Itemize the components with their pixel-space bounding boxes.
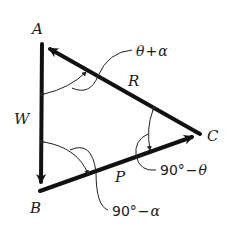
vertex-label-b: B bbox=[29, 199, 41, 217]
leader-a bbox=[72, 50, 132, 90]
angle-label-b: 90°−α bbox=[112, 203, 161, 219]
edge-label-w: W bbox=[14, 110, 31, 128]
angle-arc-a bbox=[44, 72, 86, 94]
vertex-label-a: A bbox=[30, 20, 43, 38]
edge-w bbox=[41, 44, 42, 182]
angle-arc-b bbox=[44, 142, 88, 174]
edge-r bbox=[50, 49, 200, 134]
edge-label-p: P bbox=[114, 168, 126, 186]
angle-label-a: θ+α bbox=[136, 43, 168, 59]
vertex-label-c: C bbox=[207, 127, 219, 145]
angle-label-c: 90°−θ bbox=[160, 162, 208, 178]
edge-label-r: R bbox=[127, 72, 139, 90]
force-triangle-diagram: A B C W P R θ+α 90°−θ 90°−α bbox=[0, 0, 236, 229]
angle-arc-c bbox=[149, 110, 153, 150]
